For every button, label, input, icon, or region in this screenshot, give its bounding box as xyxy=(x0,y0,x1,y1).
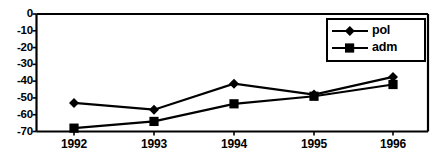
data-point-pol xyxy=(229,79,239,89)
legend-item-adm: adm xyxy=(331,39,419,56)
data-point-adm xyxy=(229,99,238,108)
legend-diamond-marker-icon xyxy=(331,23,369,39)
legend-square-marker-icon xyxy=(331,40,369,56)
data-point-adm xyxy=(388,80,397,89)
x-tick-label: 1992 xyxy=(61,138,87,150)
x-tick-label: 1993 xyxy=(141,138,167,150)
x-tick-label: 1995 xyxy=(301,138,327,150)
legend-label: adm xyxy=(372,41,397,54)
data-point-pol xyxy=(149,105,159,115)
line-chart: 0-10-20-30-40-50-60-70 19921993199419951… xyxy=(0,0,440,156)
data-point-adm xyxy=(309,92,318,101)
data-point-adm xyxy=(69,124,78,133)
x-tick-label: 1994 xyxy=(221,138,247,150)
data-point-adm xyxy=(149,117,158,126)
data-point-pol xyxy=(69,98,79,108)
x-tick-label: 1996 xyxy=(380,138,406,150)
chart-legend: poladm xyxy=(326,18,426,62)
x-axis-tick-labels: 19921993199419951996 xyxy=(0,136,440,156)
legend-item-pol: pol xyxy=(331,22,419,39)
legend-label: pol xyxy=(372,24,390,37)
